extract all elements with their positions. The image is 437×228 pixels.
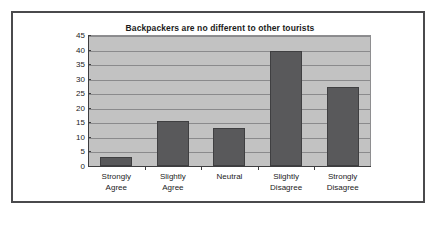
y-axis-tick-mark <box>88 79 91 80</box>
x-axis-category-label-line: Disagree <box>314 183 371 194</box>
x-axis-category-label: StronglyAgree <box>88 172 145 193</box>
x-axis-category-label: StronglyDisagree <box>314 172 371 193</box>
y-axis-tick-labels: 051015202530354045 <box>58 35 85 166</box>
y-axis-tick-mark <box>88 122 91 123</box>
x-axis-category-label-line: Disagree <box>258 183 315 194</box>
x-axis-tick-mark <box>145 166 146 170</box>
y-axis-tick-mark <box>88 64 91 65</box>
bar[interactable] <box>157 121 189 166</box>
y-axis-tick-label: 25 <box>59 89 85 98</box>
y-axis-tick-label: 10 <box>59 132 85 141</box>
y-axis-tick-label: 0 <box>59 162 85 171</box>
y-axis-tick-label: 40 <box>59 45 85 54</box>
y-axis-tick-mark <box>88 108 91 109</box>
x-axis-category-label-line: Slightly <box>258 172 315 183</box>
chart-figure: Backpackers are no different to other to… <box>0 0 437 228</box>
y-axis-tick-mark <box>88 166 91 167</box>
bar-slot <box>145 35 202 166</box>
x-axis-category-label-line: Strongly <box>314 172 371 183</box>
x-axis-category-label-line: Agree <box>88 183 145 194</box>
y-axis-tick-label: 35 <box>59 60 85 69</box>
bar[interactable] <box>327 87 359 166</box>
x-axis-tick-mark <box>201 166 202 170</box>
x-axis-tick-mark <box>258 166 259 170</box>
y-axis-tick-mark <box>88 137 91 138</box>
bar-slot <box>88 35 145 166</box>
chart-title: Backpackers are no different to other to… <box>60 23 380 33</box>
y-axis-tick-label: 45 <box>59 31 85 40</box>
bar[interactable] <box>100 157 132 166</box>
x-axis-category-label-line: Neutral <box>201 172 258 183</box>
x-axis-category-label: Neutral <box>201 172 258 183</box>
bar-slot <box>314 35 371 166</box>
x-axis-category-label-line: Slightly <box>145 172 202 183</box>
x-axis-category-label: SlightlyDisagree <box>258 172 315 193</box>
y-axis-tick-label: 5 <box>59 147 85 156</box>
y-axis-tick-mark <box>88 93 91 94</box>
bar-slot <box>258 35 315 166</box>
x-axis-category-label: SlightlyAgree <box>145 172 202 193</box>
x-axis-category-label-line: Agree <box>145 183 202 194</box>
bar-slot <box>201 35 258 166</box>
x-axis-line <box>88 166 371 167</box>
y-axis-tick-mark <box>88 50 91 51</box>
y-axis-tick-label: 15 <box>59 118 85 127</box>
y-axis-tick-mark <box>88 151 91 152</box>
y-axis-tick-label: 30 <box>59 74 85 83</box>
x-axis-category-labels: StronglyAgreeSlightlyAgreeNeutralSlightl… <box>88 172 371 198</box>
bar[interactable] <box>213 128 245 166</box>
bar-series <box>88 35 371 166</box>
bar[interactable] <box>270 51 302 166</box>
y-axis-tick-label: 20 <box>59 103 85 112</box>
x-axis-tick-mark <box>314 166 315 170</box>
y-axis-tick-mark <box>88 35 91 36</box>
x-axis-category-label-line: Strongly <box>88 172 145 183</box>
